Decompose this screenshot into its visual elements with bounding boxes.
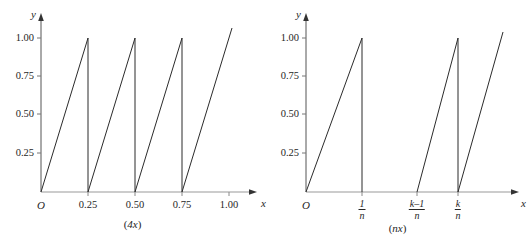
x-tick-label-1: 0.50 — [126, 200, 144, 211]
y-axis — [303, 13, 309, 192]
sawtooth-curve-4x — [41, 28, 232, 192]
caption-close-paren: ) — [138, 218, 142, 230]
x-tick-label-fraction-0: 1 n — [359, 198, 366, 221]
y-tick-label-3: 1.00 — [265, 33, 299, 44]
x-tick-marks — [88, 192, 229, 196]
x-axis-label: x — [521, 197, 526, 209]
fraction-denominator: n — [409, 210, 425, 221]
fraction-numerator: 1 — [359, 198, 366, 210]
chart-panel-nx: 0.25 0.50 0.75 1.00 1 n k–1 n k n O x y … — [265, 0, 530, 244]
sawtooth-curve-nx — [306, 32, 503, 192]
x-tick-label-fraction-1: k–1 n — [409, 198, 425, 221]
y-tick-label-0: 0.25 — [265, 148, 299, 159]
caption-function: 4x — [127, 218, 137, 230]
origin-label: O — [37, 199, 45, 211]
panel-caption-4x: (4x) — [0, 218, 265, 230]
x-tick-label-fraction-2: k n — [455, 198, 461, 221]
x-tick-label-0: 0.25 — [79, 200, 97, 211]
x-tick-label-2: 0.75 — [173, 200, 191, 211]
x-axis — [306, 189, 519, 195]
y-tick-label-0: 0.25 — [0, 148, 34, 159]
y-axis-label: y — [296, 8, 301, 20]
caption-function: nx — [392, 222, 402, 234]
caption-close-paren: ) — [403, 222, 407, 234]
y-tick-marks — [302, 38, 306, 153]
origin-label: O — [302, 199, 310, 211]
y-tick-label-2: 0.75 — [0, 71, 34, 82]
panel-caption-nx: (nx) — [265, 222, 530, 234]
y-tick-label-2: 0.75 — [265, 71, 299, 82]
fraction-numerator: k–1 — [409, 198, 425, 210]
fraction-denominator: n — [455, 210, 461, 221]
y-tick-label-1: 0.50 — [0, 109, 34, 120]
fraction-denominator: n — [359, 210, 366, 221]
figure-container: 0.25 0.50 0.75 1.00 0.25 0.50 0.75 1.00 … — [0, 0, 530, 244]
y-axis-label: y — [31, 8, 36, 20]
x-axis — [41, 189, 257, 195]
y-tick-label-3: 1.00 — [0, 33, 34, 44]
y-axis — [38, 13, 44, 192]
fraction-numerator: k — [455, 198, 461, 210]
x-tick-marks — [362, 192, 458, 196]
y-tick-marks — [37, 38, 41, 153]
x-tick-label-3: 1.00 — [220, 200, 238, 211]
y-tick-label-1: 0.50 — [265, 109, 299, 120]
chart-panel-4x: 0.25 0.50 0.75 1.00 0.25 0.50 0.75 1.00 … — [0, 0, 265, 244]
